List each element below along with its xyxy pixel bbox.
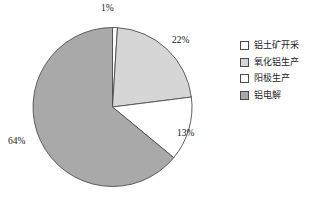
legend-item-3: 铝电解 [240,88,325,104]
legend-label-3: 铝电解 [254,90,281,101]
slice-data-label-0: 1% [101,3,114,13]
chart-legend: 铝土矿开采 氧化铝生产 阳极生产 铝电解 [240,38,325,104]
legend-swatch-icon-3 [240,91,249,100]
slice-data-label-1: 22% [172,35,189,45]
legend-item-0: 铝土矿开采 [240,38,325,54]
pie-slice-group [33,28,192,187]
legend-item-2: 阳极生产 [240,71,325,87]
legend-swatch-icon-1 [240,58,249,67]
legend-label-0: 铝土矿开采 [254,40,299,51]
slice-data-label-2: 13% [177,128,194,138]
slice-data-label-3: 64% [8,136,25,146]
legend-swatch-icon-2 [240,74,249,83]
legend-label-2: 阳极生产 [254,73,290,84]
pie-svg [0,0,215,202]
pie-plot-area: 1% 22% 13% 64% [0,0,215,202]
legend-item-1: 氧化铝生产 [240,55,325,71]
legend-swatch-icon-0 [240,41,249,50]
pie-chart-figure: 1% 22% 13% 64% 铝土矿开采 氧化铝生产 阳极生产 铝电解 [0,0,327,202]
legend-label-1: 氧化铝生产 [254,57,299,68]
